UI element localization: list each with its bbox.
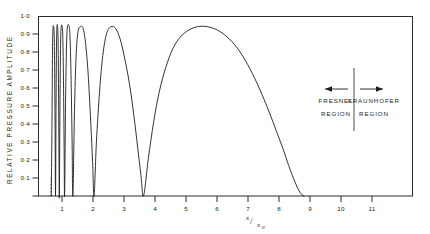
- y-tick-label: 0·1: [20, 174, 30, 181]
- y-tick-label: 0·3: [20, 138, 30, 145]
- x-tick-label: 7: [246, 205, 250, 212]
- x-tick-label: 5: [184, 205, 188, 212]
- x-tick-label: 2: [91, 205, 95, 212]
- x-tick-label: 4: [153, 205, 157, 212]
- figure-container: 0·1 0·2 0·3 0·4 0·5 0·6 0·7 0·8 0·9 1·0 …: [0, 0, 430, 234]
- fraunhofer-label-line1: FRAUNHOFER: [348, 97, 400, 104]
- x-tick-label: 11: [369, 205, 376, 212]
- chart-background: [0, 0, 430, 234]
- y-tick-label: 0·4: [20, 120, 30, 127]
- fresnel-label-line2: REGION: [321, 110, 351, 117]
- y-axis-title: RELATIVE PRESSURE AMPLITUDE: [6, 35, 13, 184]
- x-tick-label: 6: [215, 205, 219, 212]
- x-tick-label: 3: [122, 205, 126, 212]
- x-tick-label: 9: [308, 205, 312, 212]
- y-tick-label: 0·7: [20, 66, 30, 73]
- y-tick-label: 0·8: [20, 48, 30, 55]
- x-tick-label: 8: [277, 205, 281, 212]
- chart-svg: 0·1 0·2 0·3 0·4 0·5 0·6 0·7 0·8 0·9 1·0 …: [0, 0, 430, 234]
- y-tick-label: 0·9: [20, 30, 30, 37]
- x-tick-label: 1: [60, 205, 64, 212]
- y-tick-label: 1·0: [20, 12, 30, 19]
- y-tick-label: 0·5: [20, 102, 30, 109]
- y-tick-label: 0·6: [20, 84, 30, 91]
- x-tick-label: 10: [337, 205, 345, 212]
- y-tick-label: 0·2: [20, 156, 30, 163]
- fraunhofer-label-line2: REGION: [359, 110, 389, 117]
